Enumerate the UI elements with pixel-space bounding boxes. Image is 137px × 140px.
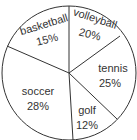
slice-pct-soccer: 28%	[27, 100, 49, 112]
slice-label-soccer: soccer	[22, 85, 55, 97]
slice-label-tennis: tennis	[98, 62, 128, 74]
slice-label-golf: golf	[78, 104, 97, 116]
pie-chart: volleyball 20% tennis 25% golf 12% socce…	[0, 0, 137, 140]
slice-pct-tennis: 25%	[99, 77, 121, 89]
slice-pct-golf: 12%	[76, 119, 98, 131]
